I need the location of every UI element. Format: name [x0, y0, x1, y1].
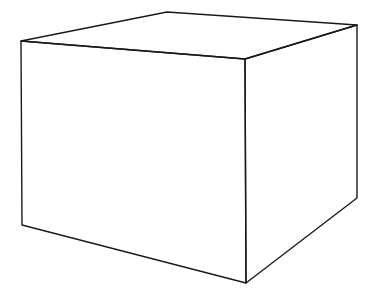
- cube-right-face: [245, 25, 357, 283]
- cube-left-face: [21, 41, 246, 283]
- cube-top-face: [21, 12, 357, 59]
- cube-diagram: [0, 0, 380, 299]
- diagram-canvas: [0, 0, 380, 299]
